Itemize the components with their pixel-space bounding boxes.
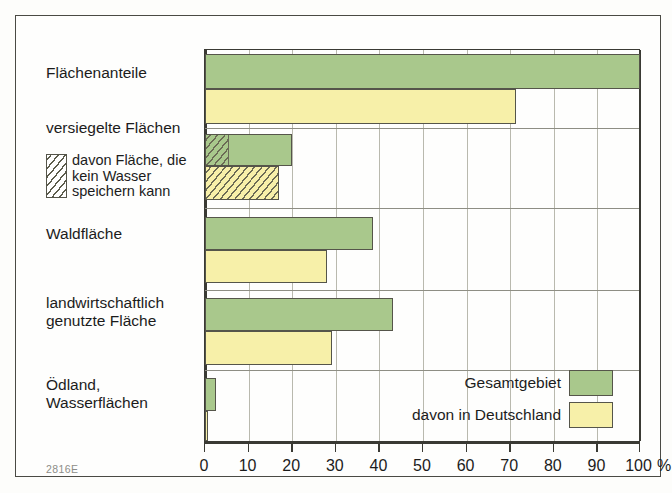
x-ticklabel-90: 90: [587, 457, 605, 475]
bar-flaechenanteile-deutschland: [205, 89, 516, 124]
x-axis-unit-label: %: [657, 457, 671, 475]
x-tick-50: [422, 442, 423, 452]
bar-versiegelte-gesamtgebiet: [205, 134, 292, 166]
x-tick-70: [509, 442, 510, 452]
x-tick-80: [553, 442, 554, 452]
row-separator-2: [205, 208, 639, 209]
category-label-oedland: Ödland, Wasserflächen: [46, 376, 148, 412]
x-ticklabel-30: 30: [326, 457, 344, 475]
category-label-versiegelte-flaechen: versiegelte Flächen: [46, 119, 180, 137]
x-ticklabel-50: 50: [413, 457, 431, 475]
hatch-overlay-versiegelte-gesamtgebiet: [206, 135, 229, 165]
figure-id-code: 2816E: [46, 463, 78, 475]
hatch-overlay-versiegelte-deutschland: [206, 167, 278, 199]
x-tick-20: [291, 442, 292, 452]
bar-flaechenanteile-gesamtgebiet: [205, 54, 640, 89]
x-tick-40: [378, 442, 379, 452]
x-ticklabel-20: 20: [282, 457, 300, 475]
x-tick-60: [466, 442, 467, 452]
x-tick-100: [639, 442, 640, 452]
bar-waldflaeche-gesamtgebiet: [205, 217, 373, 250]
gridline-100: [640, 50, 642, 441]
x-tick-0: [204, 442, 205, 452]
hatch-sublegend-label: davon Fläche, die kein Wasser speichern …: [72, 153, 186, 200]
x-ticklabel-80: 80: [544, 457, 562, 475]
x-tick-90: [596, 442, 597, 452]
row-separator-3: [205, 290, 639, 291]
x-ticklabel-0: 0: [200, 457, 209, 475]
legend-swatch-gesamtgebiet: [569, 370, 613, 396]
bar-oedland-gesamtgebiet: [205, 378, 216, 411]
bar-oedland-deutschland: [205, 411, 208, 441]
bar-versiegelte-deutschland: [205, 166, 279, 200]
hatch-sublegend: davon Fläche, die kein Wasser speichern …: [46, 153, 201, 200]
category-label-landwirtschaft: landwirtschaftlich genutzte Fläche: [46, 294, 164, 330]
x-ticklabel-70: 70: [500, 457, 518, 475]
x-ticklabel-100: 100: [625, 457, 652, 475]
legend-label-gesamtgebiet: Gesamtgebiet: [465, 374, 562, 392]
x-ticklabel-10: 10: [239, 457, 257, 475]
figure-frame: Flächenanteile versiegelte Flächen davon…: [15, 15, 661, 477]
x-ticklabel-60: 60: [457, 457, 475, 475]
legend-swatch-deutschland: [569, 402, 613, 428]
bar-landwirtschaft-deutschland: [205, 331, 332, 365]
x-tick-30: [335, 442, 336, 452]
category-label-flaechenanteile: Flächenanteile: [46, 64, 147, 82]
category-label-waldflaeche: Waldfläche: [46, 225, 122, 243]
x-ticklabel-40: 40: [369, 457, 387, 475]
plot-area: Gesamtgebiet davon in Deutschland: [204, 49, 640, 442]
figure-page: Flächenanteile versiegelte Flächen davon…: [0, 0, 672, 493]
legend-entry-gesamtgebiet: Gesamtgebiet: [465, 370, 614, 396]
x-tick-10: [248, 442, 249, 452]
hatch-swatch-icon: [46, 154, 67, 198]
legend-label-deutschland: davon in Deutschland: [412, 406, 561, 424]
row-separator-1: [205, 128, 639, 129]
legend-entry-deutschland: davon in Deutschland: [412, 402, 613, 428]
bar-waldflaeche-deutschland: [205, 250, 327, 283]
bar-landwirtschaft-gesamtgebiet: [205, 298, 393, 331]
